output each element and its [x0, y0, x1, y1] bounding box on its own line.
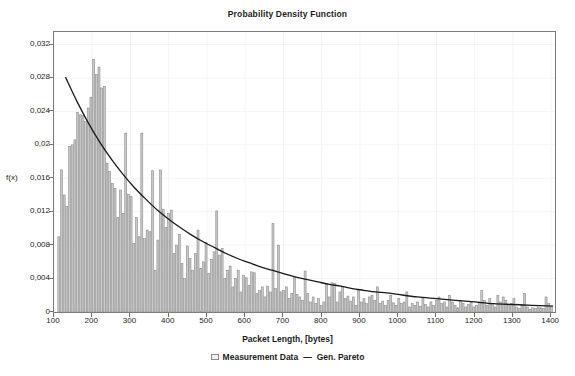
y-axis-title: f(x)	[6, 173, 18, 182]
x-axis-labels: 1002003004005006007008009001000110012001…	[0, 0, 575, 376]
x-tick-label: 700	[262, 316, 302, 325]
x-tick-label: 900	[339, 316, 379, 325]
chart-legend: Measurement Data — Gen. Pareto	[0, 352, 575, 362]
x-tick-label: 500	[186, 316, 226, 325]
x-tick-mark	[359, 313, 360, 317]
legend-swatch-line-icon: —	[302, 352, 313, 362]
y-tick-mark	[49, 44, 53, 45]
x-tick-mark	[168, 313, 169, 317]
x-tick-mark	[321, 313, 322, 317]
x-tick-label: 1000	[377, 316, 417, 325]
x-tick-mark	[397, 313, 398, 317]
x-tick-label: 800	[301, 316, 341, 325]
x-tick-mark	[91, 313, 92, 317]
x-tick-label: 1300	[492, 316, 532, 325]
y-tick-mark	[49, 77, 53, 78]
legend-label-model: Gen. Pareto	[317, 352, 365, 362]
chart-container: Probability Density Function 00,0040,008…	[0, 0, 575, 376]
legend-swatch-histogram-icon	[211, 354, 219, 360]
x-tick-label: 600	[224, 316, 264, 325]
x-tick-label: 200	[71, 316, 111, 325]
y-tick-mark	[49, 244, 53, 245]
x-tick-mark	[129, 313, 130, 317]
x-tick-label: 400	[148, 316, 188, 325]
x-tick-mark	[244, 313, 245, 317]
x-tick-mark	[474, 313, 475, 317]
x-tick-mark	[282, 313, 283, 317]
y-tick-mark	[49, 211, 53, 212]
x-axis-title: Packet Length, [bytes]	[0, 334, 575, 344]
x-tick-mark	[206, 313, 207, 317]
x-tick-mark	[550, 313, 551, 317]
y-tick-mark	[49, 177, 53, 178]
x-tick-mark	[53, 313, 54, 317]
legend-label-measurement: Measurement Data	[223, 352, 299, 362]
x-tick-label: 1400	[530, 316, 570, 325]
x-tick-label: 1100	[415, 316, 455, 325]
x-tick-label: 1200	[454, 316, 494, 325]
x-tick-mark	[512, 313, 513, 317]
x-tick-mark	[435, 313, 436, 317]
x-tick-label: 100	[33, 316, 73, 325]
y-tick-mark	[49, 110, 53, 111]
y-tick-mark	[49, 278, 53, 279]
y-tick-mark	[49, 311, 53, 312]
y-tick-mark	[49, 144, 53, 145]
x-tick-label: 300	[109, 316, 149, 325]
